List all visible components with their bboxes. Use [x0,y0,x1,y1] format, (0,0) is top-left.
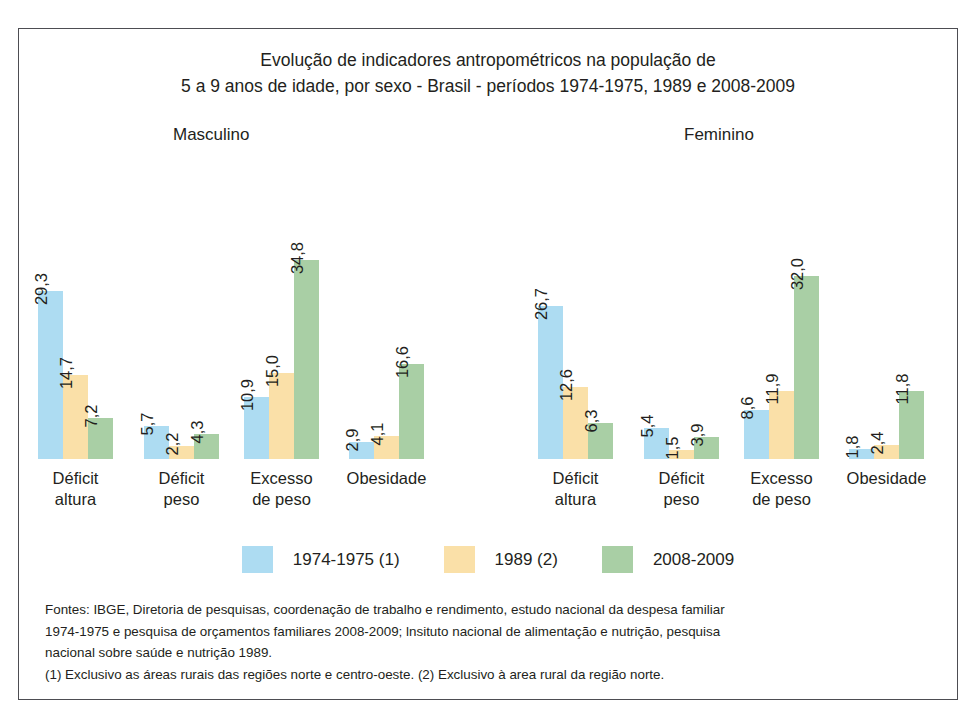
bar-slot[interactable]: 2,2 [169,446,194,459]
bar-value-label: 32,0 [788,258,807,290]
footnote-line-3: nacional sobre saúde e nutrição 1989. [45,642,937,664]
bar-value-label: 2,2 [163,433,182,456]
bar-group: 26,712,66,3Déficit altura [538,29,613,459]
bar-value-label: 4,3 [188,421,207,444]
bar-rect[interactable] [399,364,424,459]
bar-value-label: 2,9 [343,429,362,452]
footnote-line-1: Fontes: IBGE, Diretoria de pesquisas, co… [45,599,937,621]
bar-slot[interactable]: 11,8 [899,391,924,459]
bars-row: 26,712,66,3 [538,306,613,459]
legend-item[interactable]: 1974-1975 (1) [242,546,400,573]
legend-item[interactable]: 1989 (2) [444,546,558,573]
bar-value-label: 5,7 [138,413,157,436]
bar-slot[interactable]: 4,3 [194,434,219,459]
bar-value-label: 8,6 [738,396,757,419]
bar-slot[interactable]: 16,6 [399,364,424,459]
bar-rect[interactable] [294,260,319,459]
bar-group: 10,915,034,8Excesso de peso [244,29,319,459]
legend-label: 1989 (2) [495,550,558,570]
bars-row: 2,94,116,6 [349,364,424,459]
bar-value-label: 7,2 [82,404,101,427]
bar-value-label: 4,1 [368,422,387,445]
bar-value-label: 3,9 [688,423,707,446]
bar-value-label: 15,0 [263,355,282,387]
bars-row: 5,41,53,9 [644,428,719,459]
bar-slot[interactable]: 10,9 [244,397,269,459]
chart-footnotes: Fontes: IBGE, Diretoria de pesquisas, co… [45,599,937,685]
bar-value-label: 11,8 [893,374,912,405]
legend-label: 1974-1975 (1) [293,550,400,570]
bar-value-label: 6,3 [582,409,601,432]
bar-group: 5,41,53,9Déficit peso [644,29,719,459]
legend-label: 2008-2009 [653,550,734,570]
bars-row: 10,915,034,8 [244,260,319,459]
bars-row: 8,611,932,0 [744,276,819,459]
bars-row: 1,82,411,8 [849,391,924,459]
bar-value-label: 14,7 [57,357,76,389]
bar-value-label: 12,6 [557,369,576,401]
bar-value-label: 29,3 [32,273,51,305]
category-label: Déficit peso [659,468,705,510]
bar-group: 29,314,77,2Déficit altura [38,29,113,459]
bar-value-label: 1,8 [843,435,862,458]
category-label: Déficit peso [159,468,205,510]
bar-group: 1,82,411,8Obesidade [849,29,924,459]
category-label: Obesidade [847,468,927,489]
bar-slot[interactable]: 6,3 [588,423,613,459]
legend-item[interactable]: 2008-2009 [602,546,734,573]
chart-legend: 1974-1975 (1)1989 (2)2008-2009 [19,546,957,573]
category-label: Obesidade [347,468,427,489]
chart-figure-frame: Evolução de indicadores antropométricos … [18,28,958,700]
bar-group: 5,72,24,3Déficit peso [144,29,219,459]
category-label: Déficit altura [53,468,99,510]
bar-slot[interactable]: 11,9 [769,391,794,459]
bar-slot[interactable]: 4,1 [374,436,399,459]
bar-slot[interactable]: 7,2 [88,418,113,459]
bar-slot[interactable]: 34,8 [294,260,319,459]
bar-value-label: 34,8 [288,242,307,274]
footnote-line-4: (1) Exclusivo as áreas rurais das regiõe… [45,664,937,686]
bar-value-label: 5,4 [638,415,657,438]
bar-value-label: 11,9 [763,373,782,404]
bar-slot[interactable]: 1,5 [669,450,694,459]
bar-value-label: 1,5 [663,437,682,460]
bar-slot[interactable]: 8,6 [744,410,769,459]
bar-slot[interactable]: 32,0 [794,276,819,459]
legend-swatch [602,546,633,573]
bars-row: 5,72,24,3 [144,426,219,459]
category-label: Déficit altura [553,468,599,510]
bar-value-label: 16,6 [393,346,412,378]
bar-value-label: 26,7 [532,288,551,320]
category-label: Excesso de peso [250,468,312,510]
bar-group: 2,94,116,6Obesidade [349,29,424,459]
legend-swatch [242,546,273,573]
bar-value-label: 10,9 [238,378,257,410]
bar-slot[interactable]: 3,9 [694,437,719,459]
bar-value-label: 2,4 [868,432,887,455]
bar-slot[interactable]: 15,0 [269,373,294,459]
footnote-line-2: 1974-1975 e pesquisa de orçamentos famil… [45,621,937,643]
bar-slot[interactable]: 2,4 [874,445,899,459]
legend-swatch [444,546,475,573]
bars-row: 29,314,77,2 [38,291,113,459]
bar-rect[interactable] [794,276,819,459]
category-label: Excesso de peso [750,468,812,510]
bar-group: 8,611,932,0Excesso de peso [744,29,819,459]
